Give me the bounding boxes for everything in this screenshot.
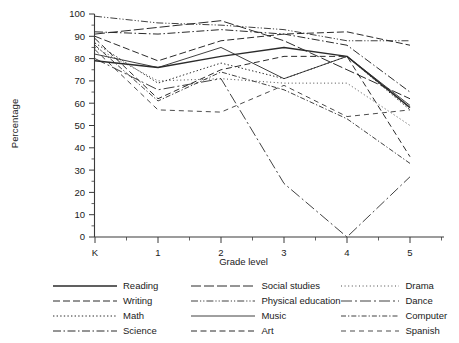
- legend-swatch-reading: [52, 281, 118, 291]
- legend-item-art[interactable]: Art: [190, 323, 340, 338]
- data-series-layer: [95, 16, 410, 237]
- y-axis-ticks: 0102030405060708090100: [69, 8, 94, 242]
- svg-text:70: 70: [74, 75, 85, 86]
- legend-swatch-writing: [52, 296, 118, 306]
- legend-item-computer[interactable]: Computer: [340, 308, 459, 323]
- legend-swatch-art: [190, 326, 256, 336]
- legend-swatch-social-studies: [190, 281, 256, 291]
- svg-text:10: 10: [74, 209, 85, 220]
- svg-text:80: 80: [74, 53, 85, 64]
- x-axis-title: Grade level: [0, 256, 459, 267]
- svg-text:100: 100: [69, 8, 85, 19]
- svg-text:50: 50: [74, 120, 85, 131]
- legend-swatch-math: [52, 311, 118, 321]
- legend-swatch-dance: [340, 296, 400, 306]
- legend-item-social-studies[interactable]: Social studies: [190, 278, 340, 293]
- plot-area: 0102030405060708090100 K12345 Percentage…: [0, 0, 459, 270]
- x-axis-ticks: K12345: [92, 237, 442, 258]
- legend-label: Music: [261, 310, 286, 321]
- line-chart-svg: 0102030405060708090100 K12345: [0, 0, 459, 270]
- legend-item-science[interactable]: Science: [52, 323, 190, 338]
- chart-page: 0102030405060708090100 K12345 Percentage…: [0, 0, 459, 343]
- chart-legend: ReadingWritingMathScience Social studies…: [0, 278, 459, 342]
- y-axis-title: Percentage: [9, 84, 20, 164]
- legend-swatch-science: [52, 326, 118, 336]
- legend-label: Science: [123, 325, 157, 336]
- legend-label: Dance: [405, 295, 432, 306]
- legend-label: Computer: [405, 310, 447, 321]
- series-line-art: [95, 39, 410, 157]
- legend-column-2: Social studiesPhysical educationMusicArt: [190, 278, 340, 342]
- svg-text:30: 30: [74, 165, 85, 176]
- series-line-spanish: [95, 50, 410, 117]
- legend-item-math[interactable]: Math: [52, 308, 190, 323]
- legend-label: Art: [261, 325, 273, 336]
- legend-label: Spanish: [405, 325, 439, 336]
- legend-swatch-spanish: [340, 326, 400, 336]
- legend-item-writing[interactable]: Writing: [52, 293, 190, 308]
- svg-text:40: 40: [74, 142, 85, 153]
- legend-item-drama[interactable]: Drama: [340, 278, 459, 293]
- svg-text:0: 0: [80, 231, 85, 242]
- legend-label: Drama: [405, 280, 434, 291]
- x-axis-title-text: Grade level: [219, 256, 268, 267]
- svg-text:20: 20: [74, 187, 85, 198]
- legend-item-physical-education[interactable]: Physical education: [190, 293, 340, 308]
- legend-column-3: DramaDanceComputerSpanish: [340, 278, 459, 342]
- series-line-music: [95, 47, 410, 105]
- legend-item-reading[interactable]: Reading: [52, 278, 190, 293]
- legend-swatch-computer: [340, 311, 400, 321]
- legend-item-music[interactable]: Music: [190, 308, 340, 323]
- legend-label: Reading: [123, 280, 158, 291]
- legend-column-1: ReadingWritingMathScience: [52, 278, 190, 342]
- legend-label: Math: [123, 310, 144, 321]
- series-line-science: [95, 30, 410, 92]
- svg-text:90: 90: [74, 31, 85, 42]
- legend-swatch-drama: [340, 281, 400, 291]
- legend-swatch-physical-education: [190, 296, 256, 306]
- legend-swatch-music: [190, 311, 256, 321]
- series-line-math: [95, 43, 410, 110]
- series-line-dance: [95, 59, 410, 237]
- legend-label: Social studies: [261, 280, 320, 291]
- svg-text:60: 60: [74, 98, 85, 109]
- legend-label: Physical education: [261, 295, 340, 306]
- legend-label: Writing: [123, 295, 152, 306]
- legend-item-dance[interactable]: Dance: [340, 293, 459, 308]
- legend-item-spanish[interactable]: Spanish: [340, 323, 459, 338]
